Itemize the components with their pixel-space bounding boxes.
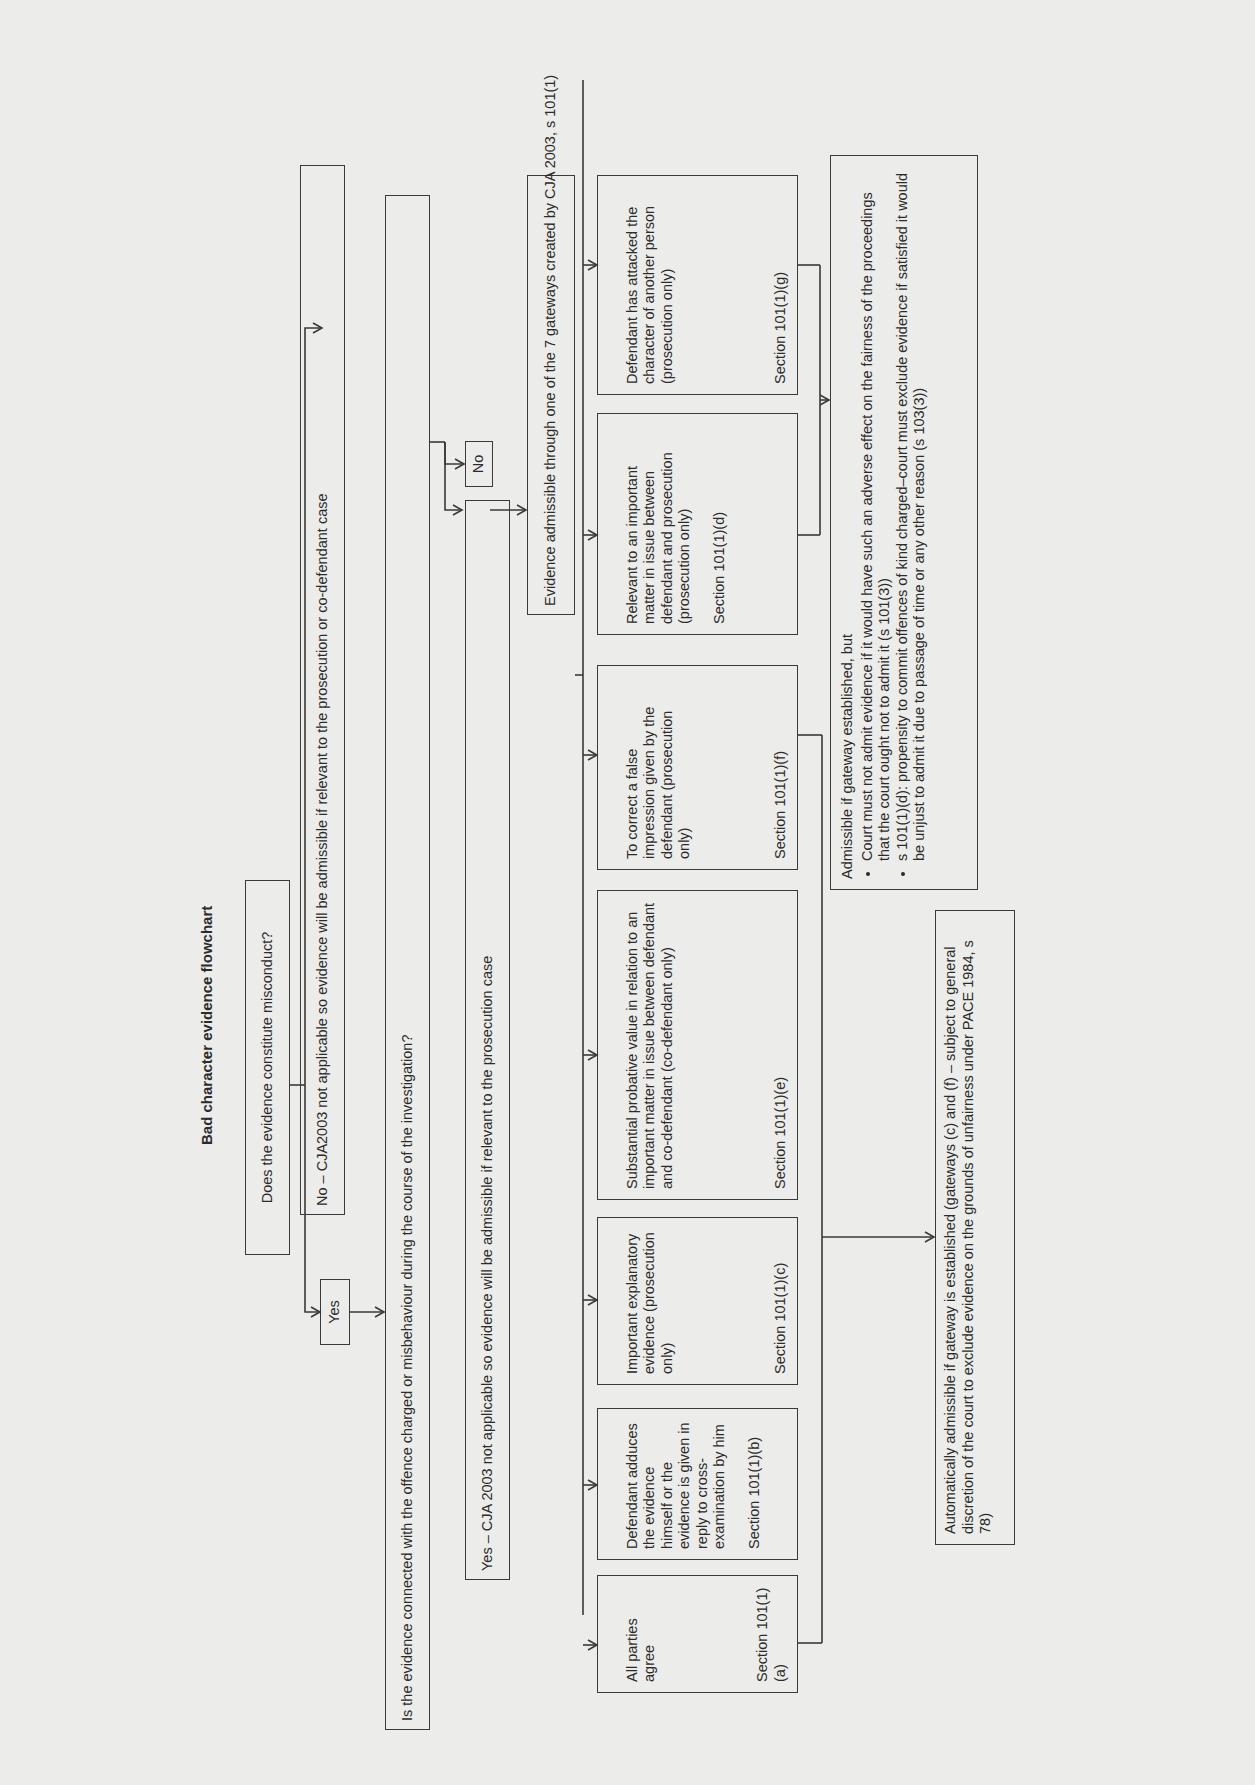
outcome-automatic-admissible: Automatically admissible if gateway is e… <box>935 910 1015 1545</box>
yes-cja-not-applicable-box: Yes – CJA 2003 not applicable so evidenc… <box>465 500 510 1580</box>
gateway-e: Substantial probative value in relation … <box>597 890 798 1200</box>
gateway-c: Important explanatory evidence (prosecut… <box>597 1217 798 1385</box>
yes-box-misconduct: Yes <box>320 1279 350 1345</box>
gateway-section: Section 101(1)(c) <box>772 1263 790 1374</box>
gateway-section: Section 101(1)(e) <box>772 1077 790 1189</box>
gateway-section: Section 101(1)(f) <box>772 751 790 859</box>
gateways-header: Evidence admissible through one of the 7… <box>527 175 575 615</box>
gateway-section: Section 101(1)(b) <box>746 1419 764 1549</box>
no-box-connected: No <box>465 441 493 487</box>
gateway-section: Section 101(1)(a) <box>754 1576 789 1682</box>
question-misconduct: Does the evidence constitute misconduct? <box>245 880 290 1255</box>
outcome-intro: Admissible if gateway established, but <box>839 166 857 879</box>
outcome-conditions-list: Court must not admit evidence if it woul… <box>859 166 929 879</box>
gateway-text: Important explanatory evidence (prosecut… <box>624 1228 677 1374</box>
gateway-a: All parties agree Section 101(1)(a) <box>597 1575 798 1693</box>
outcome-conditional-admissible: Admissible if gateway established, but C… <box>830 155 978 890</box>
gateway-text: Substantial probative value in relation … <box>624 901 677 1189</box>
gateway-text: Defendant has attacked the character of … <box>624 186 677 384</box>
gateway-section: Section 101(1)(g) <box>772 272 790 384</box>
gateway-text: All parties agree <box>624 1586 659 1682</box>
gateway-g: Defendant has attacked the character of … <box>597 175 798 395</box>
outcome-condition: s 101(1)(d): propensity to commit offenc… <box>894 166 929 861</box>
question-connected-offence: Is the evidence connected with the offen… <box>385 195 430 1730</box>
gateway-text: Relevant to an important matter in issue… <box>624 424 694 624</box>
gateway-f: To correct a false impression given by t… <box>597 665 798 870</box>
no-cja-not-applicable-box: No – CJA2003 not applicable so evidence … <box>300 165 345 1215</box>
gateway-d: Relevant to an important matter in issue… <box>597 413 798 635</box>
gateway-b: Defendant adduces the evidence himself o… <box>597 1408 798 1560</box>
gateway-text: Defendant adduces the evidence himself o… <box>624 1419 729 1549</box>
outcome-condition: Court must not admit evidence if it woul… <box>859 166 894 861</box>
flowchart-canvas: Bad character evidence flowchart Does th… <box>0 0 1255 1785</box>
gateway-section: Section 101(1)(d) <box>711 424 729 624</box>
flowchart-title: Bad character evidence flowchart <box>198 906 215 1145</box>
gateway-text: To correct a false impression given by t… <box>624 676 694 859</box>
